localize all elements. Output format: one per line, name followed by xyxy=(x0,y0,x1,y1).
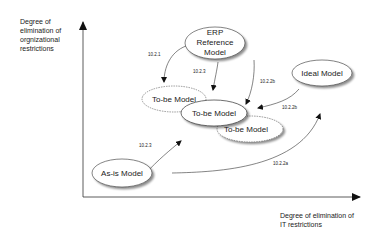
node-asis-model: As-is Model xyxy=(92,159,152,187)
node-label: Model xyxy=(204,48,226,57)
node-ideal-model: Ideal Model xyxy=(292,60,352,86)
node-erp-reference-model: ERP Reference Model xyxy=(185,27,245,59)
edge-label: 10.2.3 xyxy=(193,69,206,74)
node-label: To-be Model xyxy=(152,95,196,104)
edge-erp-to-tobe-left xyxy=(164,46,186,82)
edge-erp-to-tobe-right xyxy=(246,60,254,104)
node-label: To-be Model xyxy=(192,109,236,118)
edge-label: 10.2.2b xyxy=(260,79,276,84)
edge-label: 10.2.2a xyxy=(273,161,289,166)
node-label: ERP xyxy=(207,28,223,37)
edge-erp-to-tobe-front xyxy=(213,62,218,90)
node-label: To-be Model xyxy=(224,125,268,134)
node-label: As-is Model xyxy=(101,169,143,178)
edge-label: 10.2.3 xyxy=(139,143,152,148)
node-label: Reference xyxy=(197,38,234,47)
node-tobe-model-front: To-be Model xyxy=(181,100,247,126)
diagram-canvas: 10.2.1 10.2.3 10.2.2b 10.2.2b 10.2.3 10.… xyxy=(0,0,378,237)
node-label: Ideal Model xyxy=(301,69,343,78)
edge-label: 10.2.2b xyxy=(282,105,298,110)
edge-label: 10.2.1 xyxy=(148,52,161,57)
